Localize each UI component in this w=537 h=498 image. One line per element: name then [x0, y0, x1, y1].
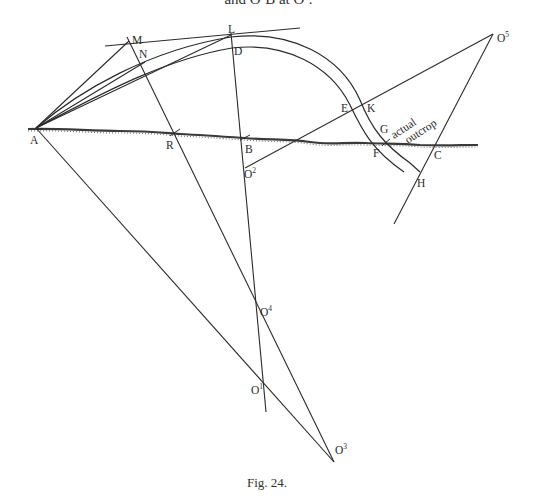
- label-C: C: [434, 149, 442, 161]
- label-O1: O1: [251, 382, 263, 396]
- label-O2: O2: [244, 166, 256, 180]
- label-E: E: [341, 102, 348, 114]
- label-O4: O4: [260, 304, 272, 318]
- label-N: N: [139, 48, 148, 60]
- label-R: R: [166, 139, 174, 151]
- geology-diagram: A R B F G C M N L D E K H O2 O5 O4 O1 O3…: [0, 0, 537, 498]
- label-G: G: [380, 123, 388, 135]
- label-L: L: [228, 23, 235, 35]
- outcrop-band: [36, 36, 420, 172]
- label-O5: O5: [497, 30, 509, 44]
- label-K: K: [367, 102, 376, 114]
- figure-caption: Fig. 24.: [247, 475, 287, 490]
- label-H: H: [417, 177, 425, 189]
- label-D: D: [234, 45, 242, 57]
- label-O3: O3: [335, 442, 347, 456]
- label-A: A: [30, 134, 39, 146]
- label-B: B: [245, 143, 253, 155]
- label-M: M: [132, 34, 142, 46]
- label-F: F: [373, 147, 379, 159]
